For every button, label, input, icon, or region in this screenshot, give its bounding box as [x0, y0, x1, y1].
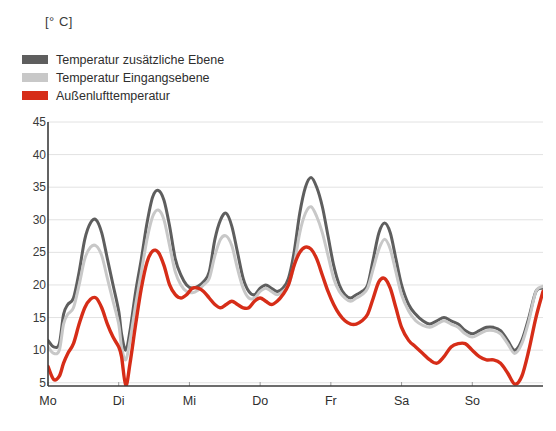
- x-tick-label: Do: [252, 394, 268, 408]
- x-tick-label: Di: [113, 394, 125, 408]
- x-tick-label: Mo: [39, 394, 56, 408]
- x-tick-label: Fr: [325, 394, 337, 408]
- x-axis-tick-labels: MoDiMiDoFrSaSo: [0, 0, 556, 431]
- temperature-line-chart: [° C] Temperatur zusätzliche EbeneTemper…: [0, 0, 556, 431]
- x-tick-label: So: [465, 394, 480, 408]
- x-tick-label: Mi: [183, 394, 196, 408]
- x-tick-label: Sa: [394, 394, 409, 408]
